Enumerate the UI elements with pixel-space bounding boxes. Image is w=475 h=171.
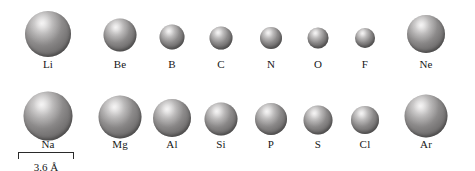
sphere-body	[210, 27, 233, 50]
atom-sphere-p	[255, 103, 287, 135]
scale-bar-tick-left	[18, 152, 19, 159]
sphere-body	[351, 106, 379, 134]
atom-label-c: C	[217, 58, 225, 70]
sphere-body	[405, 95, 448, 138]
atom-label-si: Si	[216, 138, 226, 150]
atom-sphere-s	[304, 106, 333, 135]
sphere-body	[255, 103, 287, 135]
sphere-body	[99, 96, 142, 139]
atom-sphere-al	[153, 99, 191, 137]
atom-sphere-ar	[405, 95, 448, 138]
scale-bar-line	[18, 152, 74, 153]
atom-sphere-c	[210, 27, 233, 50]
atom-label-cl: Cl	[360, 138, 371, 150]
atom-label-o: O	[314, 58, 322, 70]
atom-sphere-si	[205, 103, 238, 136]
sphere-body	[407, 15, 445, 53]
atom-label-ar: Ar	[420, 138, 432, 150]
atom-label-s: S	[315, 138, 321, 150]
sphere-body	[160, 25, 185, 50]
atom-label-na: Na	[41, 138, 54, 150]
scale-bar	[18, 152, 74, 160]
atom-sphere-ne	[407, 15, 445, 53]
sphere-body	[260, 27, 282, 49]
sphere-body	[25, 11, 71, 57]
atom-sphere-na	[24, 92, 73, 141]
atom-label-mg: Mg	[112, 138, 128, 150]
atom-label-n: N	[267, 58, 275, 70]
sphere-body	[355, 28, 375, 48]
atom-label-al: Al	[166, 138, 177, 150]
atom-label-li: Li	[43, 58, 53, 70]
atom-sphere-f	[355, 28, 375, 48]
atom-sphere-li	[25, 11, 71, 57]
sphere-body	[153, 99, 191, 137]
sphere-body	[308, 28, 329, 49]
atom-label-f: F	[362, 58, 368, 70]
atomic-radii-figure: Li Be B C N O F Ne Na Mg Al Si P S Cl Ar…	[0, 0, 475, 171]
atom-sphere-o	[308, 28, 329, 49]
sphere-body	[304, 106, 333, 135]
scale-bar-label: 3.6 Å	[18, 161, 74, 171]
atom-sphere-be	[104, 19, 137, 52]
scale-bar-tick-right	[73, 152, 74, 159]
atom-label-b: B	[168, 58, 176, 70]
atom-label-ne: Ne	[419, 58, 432, 70]
atom-label-p: P	[268, 138, 274, 150]
atom-sphere-cl	[351, 106, 379, 134]
sphere-body	[24, 92, 73, 141]
atom-label-be: Be	[114, 58, 127, 70]
atom-sphere-n	[260, 27, 282, 49]
sphere-body	[205, 103, 238, 136]
atom-sphere-mg	[99, 96, 142, 139]
sphere-body	[104, 19, 137, 52]
atom-sphere-b	[160, 25, 185, 50]
